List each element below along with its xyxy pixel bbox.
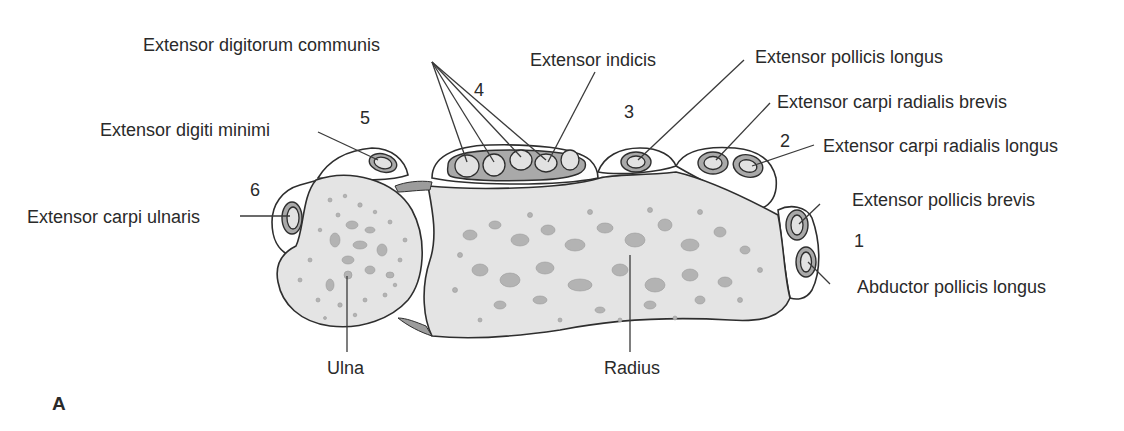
tendon-ecu xyxy=(282,202,302,234)
label-extensor-pollicis-longus: Extensor pollicis longus xyxy=(755,47,943,67)
tendon-epl xyxy=(621,152,651,172)
tendon-epb xyxy=(786,210,808,240)
tendon-ecrb xyxy=(698,152,728,174)
label-extensor-digitorum-communis: Extensor digitorum communis xyxy=(143,35,380,55)
label-extensor-pollicis-brevis: Extensor pollicis brevis xyxy=(852,190,1035,210)
label-ulna: Ulna xyxy=(327,358,365,378)
compartment-number-6: 6 xyxy=(250,180,260,200)
tendons-edc-ei xyxy=(448,150,586,181)
radius-bone xyxy=(424,172,790,338)
panel-label: A xyxy=(52,393,66,414)
wrist-cross-section-diagram: Extensor digitorum communis Extensor ind… xyxy=(0,0,1124,431)
tendon-apl xyxy=(796,247,816,277)
compartment-number-4: 4 xyxy=(474,80,484,100)
compartment-number-1: 1 xyxy=(854,231,864,251)
label-extensor-carpi-radialis-longus: Extensor carpi radialis longus xyxy=(823,136,1058,156)
label-extensor-digiti-minimi: Extensor digiti minimi xyxy=(100,120,270,140)
compartment-number-3: 3 xyxy=(624,102,634,122)
label-extensor-carpi-ulnaris: Extensor carpi ulnaris xyxy=(27,207,200,227)
compartment-number-2: 2 xyxy=(780,131,790,151)
label-radius: Radius xyxy=(604,358,660,378)
label-abductor-pollicis-longus: Abductor pollicis longus xyxy=(857,277,1046,297)
label-extensor-carpi-radialis-brevis: Extensor carpi radialis brevis xyxy=(777,92,1007,112)
label-extensor-indicis: Extensor indicis xyxy=(530,50,656,70)
compartment-number-5: 5 xyxy=(360,108,370,128)
